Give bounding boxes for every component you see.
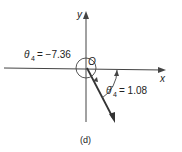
svg-text:= −7.36: = −7.36	[37, 49, 71, 60]
positive-arc-arrow-icon	[114, 70, 119, 76]
y-axis-arrow-icon	[83, 11, 89, 19]
origin-label: O	[88, 56, 96, 67]
svg-text:θ: θ	[24, 49, 30, 60]
svg-text:= 1.08: = 1.08	[119, 85, 148, 96]
x-axis-label: x	[159, 73, 166, 84]
y-axis-label: y	[76, 9, 83, 20]
svg-text:4: 4	[113, 91, 117, 98]
svg-text:4: 4	[31, 55, 35, 62]
figure-caption: (d)	[80, 135, 91, 145]
x-axis	[4, 68, 163, 70]
negative-angle-label: θ 4 = −7.36	[24, 49, 71, 62]
angle-diagram: y x O θ 4 = −7.36 θ̄ 4 = 1.08 (d)	[0, 0, 182, 152]
